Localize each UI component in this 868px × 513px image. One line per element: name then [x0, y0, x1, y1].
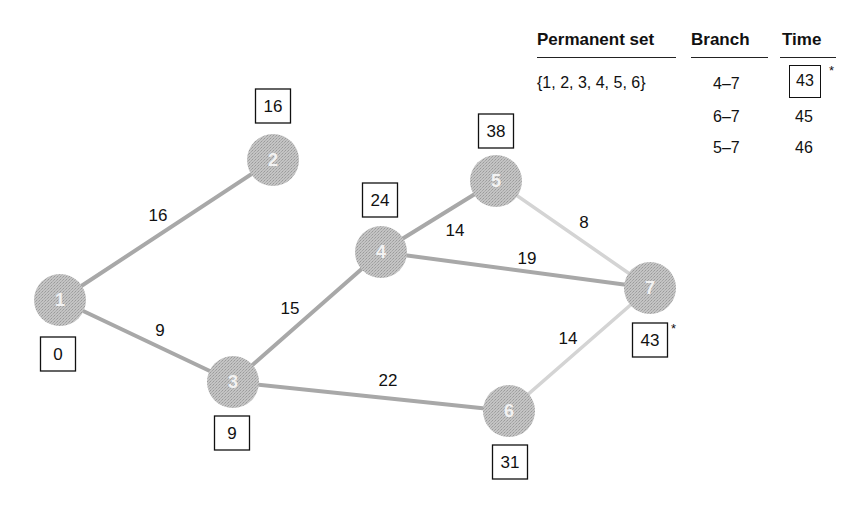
header-branch: Branch	[691, 30, 750, 50]
node-label: 4	[376, 242, 386, 262]
earliest-time-value: 0	[53, 345, 62, 364]
node-label: 1	[55, 290, 65, 310]
edge-weight-1-2: 16	[149, 206, 168, 225]
permanent-set-value: {1, 2, 3, 4, 5, 6}	[537, 74, 646, 92]
node-2: 2	[247, 134, 299, 186]
row-time: 46	[795, 139, 813, 157]
earliest-time-value: 38	[487, 122, 506, 141]
node-label: 3	[228, 372, 238, 392]
edge-weight-4-5: 14	[446, 221, 465, 240]
edge-3-4	[233, 252, 381, 382]
header-rule-permanent-set	[537, 57, 676, 58]
nodes-layer: 1234567	[34, 134, 676, 437]
header-time: Time	[782, 30, 821, 50]
time-box-node-7: 43*	[633, 321, 677, 357]
edge-1-2	[60, 160, 273, 300]
earliest-time-value: 16	[264, 97, 283, 116]
edge-weight-6-7: 14	[559, 329, 578, 348]
node-label: 7	[645, 278, 655, 298]
edge-weight-1-3: 9	[155, 321, 164, 340]
edge-weight-3-4: 15	[281, 299, 300, 318]
node-label: 2	[268, 150, 278, 170]
time-box-node-2: 16	[256, 89, 291, 123]
edges-layer	[60, 160, 650, 411]
time-box-node-4: 24	[363, 183, 398, 217]
node-3: 3	[207, 356, 259, 408]
node-6: 6	[483, 385, 535, 437]
node-label: 5	[491, 171, 501, 191]
header-rule-branch	[691, 57, 768, 58]
time-box-node-5: 38	[479, 114, 514, 148]
earliest-time-value: 31	[501, 453, 520, 472]
node-1: 1	[34, 274, 86, 326]
header-rule-time	[780, 57, 836, 58]
time-boxes-layer: 016924383143*	[41, 89, 677, 479]
edge-1-3	[60, 300, 233, 382]
time-box-node-1: 0	[41, 337, 76, 371]
header-permanent-set: Permanent set	[537, 30, 654, 50]
node-label: 6	[504, 401, 514, 421]
row-time: 43	[789, 65, 821, 98]
edge-3-6	[233, 382, 509, 411]
node-5: 5	[470, 155, 522, 207]
earliest-time-value: 24	[371, 191, 390, 210]
edge-4-7	[381, 252, 650, 288]
earliest-time-value: 9	[227, 424, 236, 443]
row-branch: 4–7	[713, 75, 740, 93]
edge-weight-4-7: 19	[518, 249, 537, 268]
row-branch: 5–7	[713, 139, 740, 157]
earliest-time-value: 43	[641, 331, 660, 350]
edge-6-7	[509, 288, 650, 411]
row-time: 45	[795, 108, 813, 126]
time-box-node-6: 31	[493, 445, 528, 479]
node-4: 4	[355, 226, 407, 278]
time-box-node-3: 9	[215, 416, 250, 450]
row-branch: 6–7	[713, 108, 740, 126]
edge-weight-3-6: 22	[379, 371, 398, 390]
row-final-marker-asterisk: *	[829, 63, 834, 78]
final-marker-asterisk: *	[671, 321, 676, 336]
edge-weight-5-7: 8	[579, 213, 588, 232]
node-7: 7	[624, 262, 676, 314]
